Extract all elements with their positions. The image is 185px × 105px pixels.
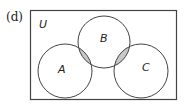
set-a-label: A <box>57 63 66 76</box>
universe-rectangle <box>31 11 177 100</box>
universe-label: U <box>39 18 47 31</box>
set-b-label: B <box>100 32 108 45</box>
venn-diagram: (d) U A B C <box>0 0 185 105</box>
set-c-circle <box>114 44 168 98</box>
set-c-label: C <box>142 61 150 74</box>
part-label: (d) <box>6 10 23 24</box>
